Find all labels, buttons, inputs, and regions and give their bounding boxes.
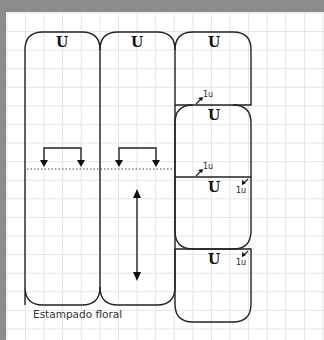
offset-label: 1u <box>203 162 213 171</box>
bracket-arrow-2 <box>119 148 156 162</box>
piece-label: U <box>208 107 220 123</box>
arrowhead-up-icon <box>133 189 141 198</box>
piece-label: U <box>131 34 143 50</box>
piece-label: U <box>208 179 220 195</box>
arrowhead-down-icon <box>133 272 141 281</box>
arrowhead-icon <box>242 252 246 257</box>
pattern-diagram: U U U U U U 1u 1u 1u 1u Estampado floral <box>0 0 324 340</box>
arrowhead-down-icon <box>77 160 85 167</box>
diagram-caption: Estampado floral <box>33 308 122 320</box>
piece-label: U <box>208 251 220 267</box>
arrowhead-down-icon <box>115 160 123 167</box>
offset-label: 1u <box>236 186 246 195</box>
arrowhead-down-icon <box>152 160 160 167</box>
offset-label: 1u <box>236 258 246 267</box>
arrowhead-icon <box>242 180 246 185</box>
bracket-arrow-1 <box>44 148 81 162</box>
offset-label: 1u <box>203 90 213 99</box>
piece-label: U <box>208 34 220 50</box>
arrowhead-down-icon <box>40 160 48 167</box>
piece-label: U <box>56 34 68 50</box>
